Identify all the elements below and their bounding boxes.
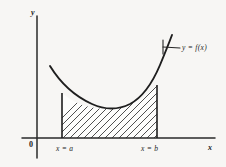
x-axis-label: x xyxy=(208,144,212,152)
integral-area-figure: y x 0 x = a x = b y = f(x) xyxy=(0,0,226,167)
figure-canvas xyxy=(0,0,226,167)
callout-leader-line xyxy=(163,47,180,48)
lower-bound-label: x = a xyxy=(56,145,73,153)
y-axis-label: y xyxy=(31,9,35,17)
origin-label: 0 xyxy=(29,141,33,149)
function-label: y = f(x) xyxy=(182,44,207,52)
upper-bound-label: x = b xyxy=(141,145,158,153)
